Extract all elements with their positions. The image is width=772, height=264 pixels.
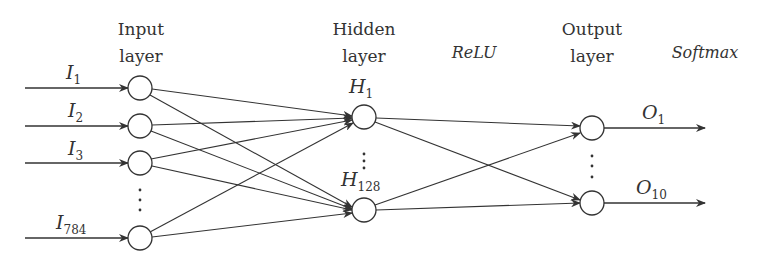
input-label-2: I2 (67, 99, 83, 125)
hidden-output-edges (375, 118, 580, 210)
output-layer-title-2: layer (570, 46, 614, 66)
input-hidden-edges (150, 89, 353, 237)
input-layer-title: Input (118, 19, 164, 39)
output-label-10: O10 (636, 176, 667, 202)
input-node-2 (128, 114, 152, 138)
output-layer-title: Output (562, 19, 623, 39)
hidden-layer-title-2: layer (342, 46, 386, 66)
input-node-3 (128, 151, 152, 175)
hidden-node-1 (352, 105, 376, 129)
input-node-1 (128, 76, 152, 100)
output-node-10 (580, 191, 604, 215)
neural-network-diagram: Input layer Hidden layer Output layer Re… (0, 0, 772, 264)
hidden-node-128 (352, 198, 376, 222)
input-node-784 (128, 226, 152, 250)
input-layer-title-2: layer (119, 46, 163, 66)
hidden-label-128: H128 (340, 168, 380, 194)
relu-label: ReLU (451, 43, 497, 62)
hidden-layer-title: Hidden (332, 19, 395, 39)
input-label-3: I3 (67, 137, 83, 163)
output-label-1: O1 (642, 101, 665, 127)
input-label-784: I784 (55, 211, 87, 237)
output-node-1 (580, 116, 604, 140)
softmax-label: Softmax (672, 43, 739, 62)
input-label-1: I1 (65, 61, 81, 87)
hidden-label-1: H1 (348, 75, 373, 101)
